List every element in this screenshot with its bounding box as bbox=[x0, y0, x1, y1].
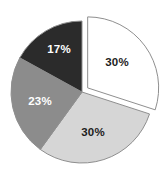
pie-chart-canvas: 30% 30% 23% 17% bbox=[0, 0, 167, 180]
pie-chart: 30% 30% 23% 17% bbox=[0, 0, 167, 180]
pie-slice-label-4: 17% bbox=[47, 43, 71, 55]
pie-slice-label-1: 30% bbox=[105, 56, 129, 68]
pie-slice-label-3: 23% bbox=[28, 95, 52, 107]
pie-slice-label-2: 30% bbox=[81, 126, 105, 138]
pie-slices bbox=[11, 17, 159, 163]
